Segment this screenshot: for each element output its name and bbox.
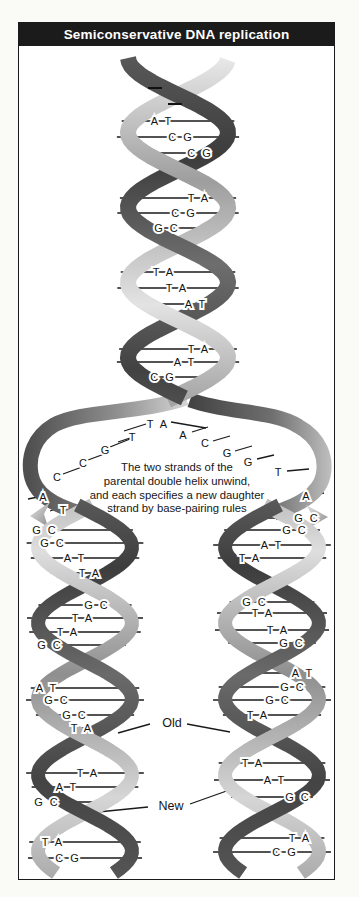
title-bar: Semiconservative DNA replication <box>19 23 334 46</box>
old-strand-label: Old <box>162 716 181 730</box>
diagram-title: Semiconservative DNA replication <box>64 27 290 42</box>
new-strand-label: New <box>158 799 183 813</box>
caption-line: parental double helix unwind, <box>72 475 282 489</box>
caption-line: The two strands of the <box>72 461 282 475</box>
diagram-frame: Semiconservative DNA replication <box>18 22 335 880</box>
caption-line: strand by base-pairing rules <box>72 502 282 516</box>
caption-line: and each specifies a new daughter <box>72 489 282 503</box>
page: Semiconservative DNA replication <box>0 0 359 897</box>
fork-caption: The two strands of the parental double h… <box>72 461 282 516</box>
